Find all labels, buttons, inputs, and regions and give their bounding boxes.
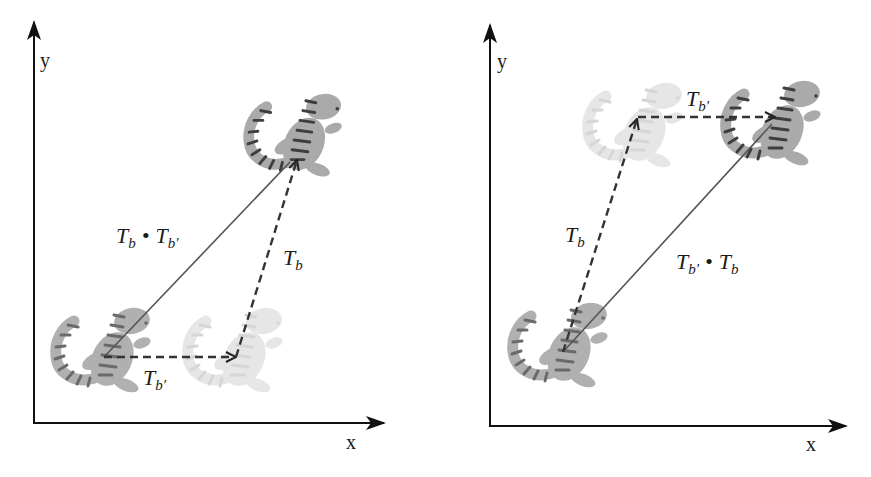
left-panel: y x Tb•Tb′ Tb Tb′ bbox=[33, 22, 384, 453]
end-lizard-icon bbox=[725, 78, 822, 168]
start-lizard-icon bbox=[512, 300, 609, 390]
ghost-lizard-icon bbox=[187, 305, 284, 395]
y-axis-label: y bbox=[40, 49, 50, 72]
vertical-step-label: Tb bbox=[283, 245, 303, 273]
x-axis-label: x bbox=[806, 433, 816, 455]
horizontal-step-label: Tb′ bbox=[143, 365, 167, 393]
composite-translation-line bbox=[563, 124, 772, 352]
y-axis-label: y bbox=[497, 50, 507, 73]
start-lizard-icon bbox=[55, 305, 152, 395]
x-axis-label: x bbox=[346, 431, 356, 453]
translation-composition-diagram: y x Tb•Tb′ Tb Tb′ bbox=[0, 0, 871, 477]
composite-label: Tb′•Tb bbox=[676, 249, 739, 277]
right-panel: y x Tb Tb′•Tb Tb′ bbox=[489, 25, 846, 455]
vertical-step-label: Tb bbox=[565, 222, 585, 250]
composite-label: Tb•Tb′ bbox=[116, 223, 179, 251]
horizontal-step-label: Tb′ bbox=[686, 86, 710, 114]
